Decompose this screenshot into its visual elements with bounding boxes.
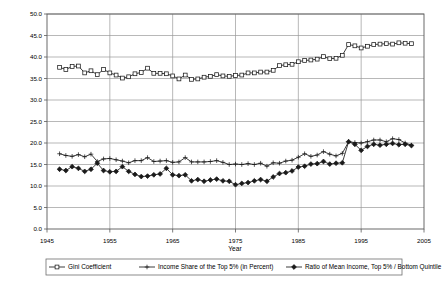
x-tick-label: 1985 (291, 237, 305, 244)
data-point-marker (227, 74, 231, 78)
x-tick-label: 1975 (229, 237, 243, 244)
data-point-marker (296, 60, 300, 64)
x-axis-title: Year (228, 245, 242, 252)
y-tick-label: 0.0 (33, 225, 42, 232)
legend-label: Income Share of the Top 5% (in Percent) (158, 263, 273, 271)
data-point-marker (77, 64, 81, 68)
y-tick-label: 50.0 (30, 10, 43, 17)
data-point-marker (410, 42, 414, 46)
y-tick-label: 40.0 (30, 53, 43, 60)
y-tick-label: 20.0 (30, 139, 43, 146)
data-point-marker (278, 64, 282, 68)
data-point-marker (83, 71, 87, 75)
data-point-marker (284, 63, 288, 67)
legend-label: Gini Coefficient (68, 263, 111, 270)
data-point-marker (234, 74, 238, 78)
data-point-marker (328, 57, 332, 61)
data-point-marker (208, 74, 212, 78)
data-point-marker (353, 44, 357, 48)
data-point-marker (334, 56, 338, 60)
data-point-marker (102, 68, 106, 72)
x-tick-label: 1965 (166, 237, 180, 244)
x-axis-tick-marks (47, 229, 424, 233)
data-point-marker (171, 74, 175, 78)
data-point-marker (378, 42, 382, 46)
income-inequality-line-chart: 0.05.010.015.020.025.030.035.040.045.050… (0, 0, 445, 286)
legend-item-0[interactable]: Gini Coefficient (49, 263, 111, 270)
legend-label: Ratio of Mean Income, Top 5% / Bottom Qu… (305, 263, 442, 271)
data-point-marker (309, 58, 313, 62)
data-point-marker (246, 71, 250, 75)
data-point-marker (146, 66, 150, 70)
data-point-marker (202, 75, 206, 79)
data-point-marker (252, 71, 256, 75)
legend: Gini CoefficientIncome Share of the Top … (46, 259, 442, 275)
legend-item-1[interactable]: Income Share of the Top 5% (in Percent) (139, 263, 273, 271)
data-point-marker (391, 42, 395, 46)
data-point-marker (403, 41, 407, 45)
data-point-marker (177, 77, 181, 81)
legend-marker-plus (145, 265, 150, 270)
y-tick-label: 25.0 (30, 118, 43, 125)
data-point-marker (133, 72, 137, 76)
data-point-marker (70, 65, 74, 69)
legend-item-2[interactable]: Ratio of Mean Income, Top 5% / Bottom Qu… (286, 263, 442, 271)
y-tick-label: 45.0 (30, 32, 43, 39)
data-point-marker (397, 41, 401, 45)
data-point-marker (271, 68, 275, 72)
x-tick-label: 1945 (40, 237, 54, 244)
data-point-marker (152, 71, 156, 75)
data-point-marker (359, 46, 363, 50)
data-point-marker (183, 73, 187, 77)
data-point-marker (221, 74, 225, 78)
y-tick-label: 30.0 (30, 96, 43, 103)
data-point-marker (290, 62, 294, 66)
data-point-marker (384, 42, 388, 46)
y-tick-label: 10.0 (30, 182, 43, 189)
data-point-marker (196, 77, 200, 81)
data-point-marker (215, 73, 219, 77)
data-point-marker (265, 70, 269, 74)
data-point-marker (315, 57, 319, 61)
data-point-marker (347, 43, 351, 47)
data-point-marker (114, 73, 118, 77)
y-axis-tick-labels: 0.05.010.015.020.025.030.035.040.045.050… (30, 10, 43, 232)
data-point-marker (158, 71, 162, 75)
data-point-marker (108, 71, 112, 75)
legend-marker-diamond (292, 265, 297, 270)
x-axis-tick-labels: 1945195519651975198519952005 (40, 237, 431, 244)
data-point-marker (58, 65, 62, 69)
data-point-marker (372, 43, 376, 47)
data-point-marker (366, 44, 370, 48)
data-point-marker (121, 76, 125, 80)
data-point-marker (322, 55, 326, 59)
legend-marker-square (55, 265, 59, 269)
data-point-marker (89, 69, 93, 73)
data-point-marker (340, 53, 344, 57)
data-point-marker (259, 70, 263, 74)
y-tick-label: 5.0 (33, 204, 42, 211)
data-point-marker (127, 75, 131, 79)
x-tick-label: 2005 (417, 237, 431, 244)
data-point-marker (64, 68, 68, 72)
x-tick-label: 1995 (354, 237, 368, 244)
y-tick-label: 35.0 (30, 75, 43, 82)
x-tick-label: 1955 (103, 237, 117, 244)
data-point-marker (190, 77, 194, 81)
data-point-marker (95, 73, 99, 77)
data-point-marker (303, 59, 307, 63)
y-tick-label: 15.0 (30, 161, 43, 168)
data-point-marker (139, 71, 143, 75)
data-point-marker (164, 72, 168, 76)
data-point-marker (240, 73, 244, 77)
